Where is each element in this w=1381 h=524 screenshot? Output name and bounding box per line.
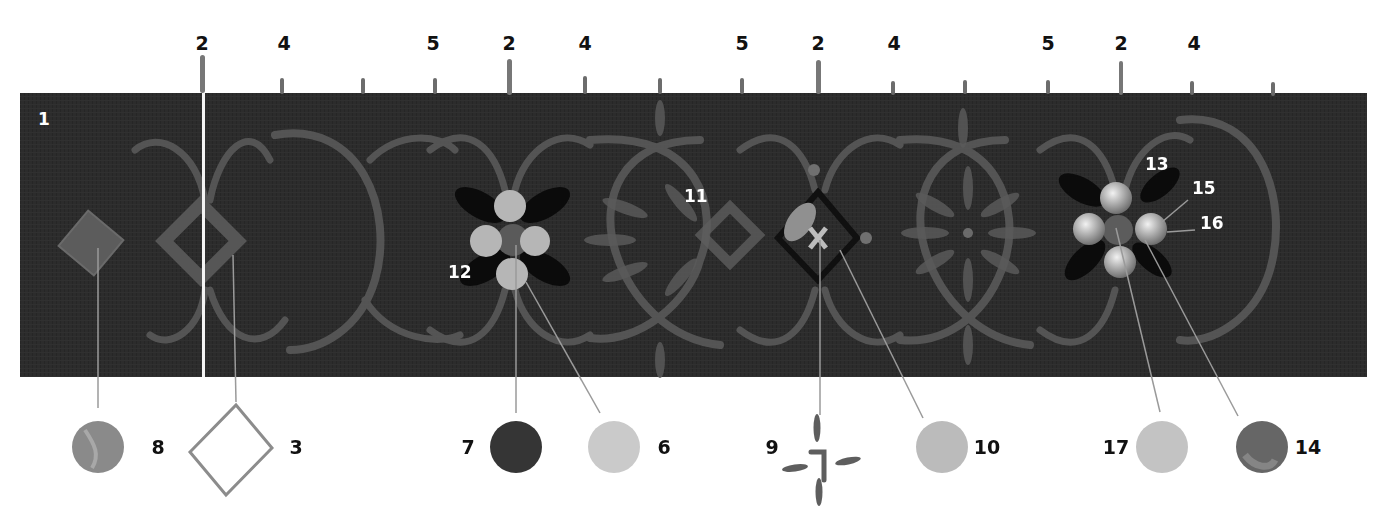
step-label-board: 15 bbox=[1192, 180, 1216, 197]
swatch-label: 9 bbox=[765, 438, 778, 457]
step-label-top: 2 bbox=[195, 34, 208, 53]
step-label-top: 2 bbox=[1114, 34, 1127, 53]
figure-artwork bbox=[0, 0, 1381, 524]
swatch-label: 3 bbox=[289, 438, 302, 457]
step-label-board: 13 bbox=[1145, 156, 1169, 173]
guide-line bbox=[202, 93, 205, 377]
painted-border-figure: 2 4 5 2 4 5 2 4 5 2 4 1 11 12 13 15 16 8… bbox=[0, 0, 1381, 524]
swatch-8 bbox=[72, 421, 124, 473]
step-label-board: 16 bbox=[1200, 215, 1224, 232]
step-label-top: 4 bbox=[1187, 34, 1200, 53]
step-label-board: 12 bbox=[448, 264, 472, 281]
swatch-17 bbox=[1136, 421, 1188, 473]
swatch-label: 6 bbox=[657, 438, 670, 457]
step-label-top: 2 bbox=[502, 34, 515, 53]
step-label-top: 5 bbox=[1041, 34, 1054, 53]
swatch-label: 7 bbox=[461, 438, 474, 457]
step-label-top: 5 bbox=[426, 34, 439, 53]
swatch-label: 14 bbox=[1295, 438, 1321, 457]
step-label-board: 11 bbox=[684, 188, 708, 205]
swatch-14 bbox=[1236, 421, 1288, 473]
step-label-top: 5 bbox=[735, 34, 748, 53]
swatch-9 bbox=[782, 414, 862, 506]
swatch-7 bbox=[490, 421, 542, 473]
swatch-6 bbox=[588, 421, 640, 473]
step-label-top: 2 bbox=[811, 34, 824, 53]
swatch-3 bbox=[190, 405, 272, 495]
swatch-label: 17 bbox=[1103, 438, 1129, 457]
swatch-label: 10 bbox=[974, 438, 1000, 457]
step-label-board: 1 bbox=[38, 111, 50, 128]
step-label-top: 4 bbox=[277, 34, 290, 53]
step-label-top: 4 bbox=[887, 34, 900, 53]
step-label-top: 4 bbox=[578, 34, 591, 53]
swatch-10 bbox=[916, 421, 968, 473]
swatch-label: 8 bbox=[151, 438, 164, 457]
stroke-sample-marks bbox=[200, 55, 1275, 96]
